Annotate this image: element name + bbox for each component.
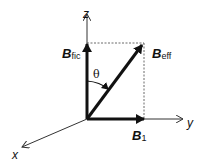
z-axis-label: z (82, 7, 89, 21)
vectors (87, 44, 144, 119)
b-fic-label: Bfic (62, 46, 81, 61)
magnetic-field-vector-diagram: z y x Bfic Beff B1 θ (0, 0, 204, 167)
b-1-label: B1 (132, 128, 146, 143)
theta-label: θ (93, 68, 100, 81)
x-axis (22, 119, 87, 147)
x-axis-label: x (11, 148, 19, 162)
y-axis-label: y (186, 116, 194, 130)
axes (22, 14, 183, 147)
theta-arc (87, 81, 108, 89)
b-eff-label: Beff (152, 46, 172, 61)
